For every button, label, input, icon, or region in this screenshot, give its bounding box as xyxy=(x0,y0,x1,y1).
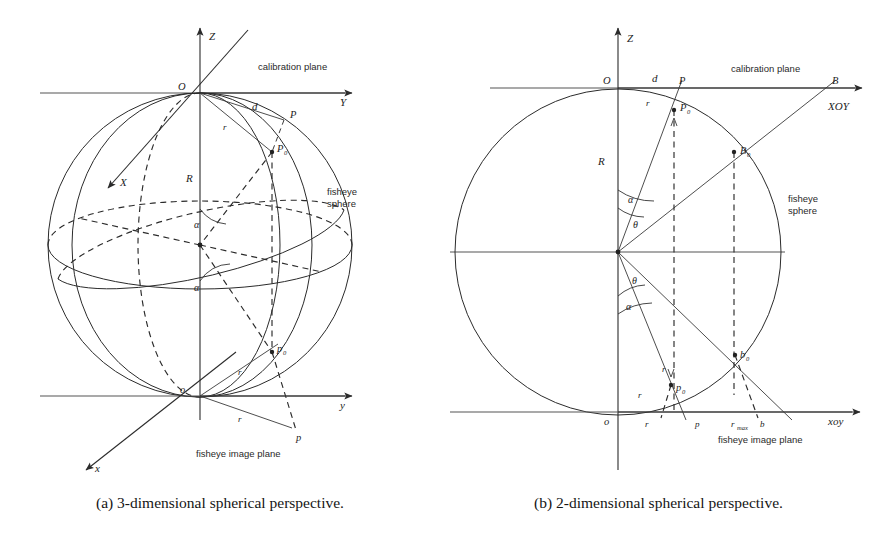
point-P-label-a: P xyxy=(289,109,297,120)
angle-alpha-upper-arc-b xyxy=(618,190,654,201)
arc-r-lower-label-a: r xyxy=(238,414,242,424)
axis-x-upper-label-a: X xyxy=(119,176,128,188)
axis-xoy-upper-label-b: XOY xyxy=(827,100,851,112)
origin-o-label-b: o xyxy=(604,416,609,427)
axis-tick-b-label-b: b xyxy=(760,419,765,429)
note-fisheye-sphere-line1-a: fisheye xyxy=(327,186,357,197)
axis-y-lower-label-a: y xyxy=(339,399,345,411)
svg-text:P: P xyxy=(276,143,284,154)
radius-R-label-a: R xyxy=(185,172,193,184)
dash-b0-to-b-b xyxy=(735,355,758,418)
svg-text:b: b xyxy=(740,349,745,360)
svg-text:p: p xyxy=(675,382,681,393)
point-P0-dot-a xyxy=(270,150,274,154)
origin-O-label-a: O xyxy=(178,81,186,92)
caption-panel-b: (b) 2-dimensional spherical perspective. xyxy=(440,494,877,512)
angle-theta-upper-arc-b xyxy=(618,208,644,217)
point-b0-label-b: b 0 xyxy=(740,349,750,362)
ray-center-to-b0-b xyxy=(618,252,792,420)
point-p0-dot-a xyxy=(270,350,274,354)
caption-panel-a: (a) 3-dimensional spherical perspective. xyxy=(0,494,440,512)
note-fisheye-sphere-line2-b: sphere xyxy=(788,205,817,216)
note-image-plane-b: fisheye image plane xyxy=(718,434,803,445)
angle-alpha-upper-arc-a xyxy=(200,209,226,224)
svg-text:P: P xyxy=(679,102,687,113)
point-P0-label-a: P 0 xyxy=(276,143,288,156)
point-B0-dot-b xyxy=(732,150,736,154)
diagram-3d-spherical-perspective: Z Y X x y O o R d r r r P P 0 p p 0 α α … xyxy=(0,0,440,490)
point-B0-label-b: B 0 xyxy=(740,145,751,158)
arc-r-bottom-label-b: r xyxy=(638,390,642,400)
note-calibration-plane-b: calibration plane xyxy=(731,63,800,74)
origin-O-label-b: O xyxy=(603,75,611,86)
radius-R-label-b: R xyxy=(597,155,605,167)
chord-O-to-P0-a xyxy=(200,93,272,152)
distance-d-label-a: d xyxy=(252,100,258,112)
point-p0-label-b: p 0 xyxy=(675,382,686,395)
angle-alpha-upper-label-a: α xyxy=(194,219,200,230)
dash-p0-to-p-a xyxy=(272,352,296,430)
angle-alpha-lower-label-a: α xyxy=(194,282,200,293)
axis-z-label-b: Z xyxy=(627,32,634,44)
svg-text:r: r xyxy=(731,419,735,429)
sphere-center-dot-b xyxy=(616,250,621,255)
axis-y-label-a: Y xyxy=(340,96,348,108)
angle-theta-lower-arc-b xyxy=(618,285,645,296)
sphere-tilted-ring-front-a xyxy=(58,210,344,289)
tick-arrow-p0-b xyxy=(668,369,674,377)
axis-x-upper-a xyxy=(108,30,248,188)
axis-tick-p-label-b: p xyxy=(694,419,700,429)
point-p-label-a: p xyxy=(295,432,301,443)
svg-text:0: 0 xyxy=(682,388,686,395)
arc-r-tick-label-b: r xyxy=(662,364,666,374)
note-fisheye-sphere-line2-a: sphere xyxy=(327,198,356,209)
axis-x-lower-label-a: x xyxy=(94,462,100,474)
arc-r-mid-label-a: r xyxy=(238,367,242,377)
note-calibration-plane-a: calibration plane xyxy=(258,61,327,72)
axis-tick-rmax-label-b: r max xyxy=(731,419,748,431)
ray-center-to-B-b xyxy=(618,80,836,252)
point-P-label-b: P xyxy=(678,75,686,86)
point-P0-label-b: P 0 xyxy=(679,102,691,115)
sphere-meridian-front-a xyxy=(200,93,280,397)
svg-text:0: 0 xyxy=(687,108,691,115)
note-image-plane-a: fisheye image plane xyxy=(196,448,281,459)
note-fisheye-sphere-line1-b: fisheye xyxy=(788,193,818,204)
angle-alpha-lower-arc-b xyxy=(618,303,652,314)
angle-theta-upper-label-b: θ xyxy=(633,219,638,230)
angle-alpha-lower-label-b: α xyxy=(626,301,632,312)
point-b0-dot-b xyxy=(733,353,737,357)
arc-r-top-label-b: r xyxy=(646,98,650,108)
point-P0-dot-b xyxy=(672,108,676,112)
axis-tick-r-label-b: r xyxy=(645,419,649,429)
svg-text:p: p xyxy=(276,343,282,354)
distance-d-label-b: d xyxy=(652,72,658,84)
angle-theta-lower-label-b: θ xyxy=(632,275,637,286)
svg-text:B: B xyxy=(740,145,747,156)
figure-root: Z Y X x y O o R d r r r P P 0 p p 0 α α … xyxy=(0,0,877,546)
origin-o-label-a: o xyxy=(180,384,185,395)
diagram-2d-spherical-perspective: Z XOY xoy O o R d r r r P B P 0 B 0 p 0 … xyxy=(440,0,877,490)
sphere-center-dot-a xyxy=(198,243,203,248)
dash-P0-to-center-a xyxy=(200,152,272,245)
arc-r-upper-label-a: r xyxy=(223,122,227,132)
point-p0-dot-b xyxy=(669,383,673,387)
angle-alpha-upper-label-b: α xyxy=(628,194,634,205)
ray-o-to-p-a xyxy=(200,396,292,428)
svg-text:0: 0 xyxy=(746,355,750,362)
sphere-meridian-back-a xyxy=(138,93,200,397)
svg-text:0: 0 xyxy=(283,349,287,356)
ray-center-to-p0-b xyxy=(618,252,686,420)
axis-xoy-lower-label-b: xoy xyxy=(827,415,843,427)
dash-equator-radius-a xyxy=(200,245,322,272)
axis-z-label-a: Z xyxy=(209,30,216,42)
svg-text:max: max xyxy=(737,424,748,431)
dash-p0-to-p-b xyxy=(661,385,671,418)
point-B-label-b: B xyxy=(832,75,839,86)
